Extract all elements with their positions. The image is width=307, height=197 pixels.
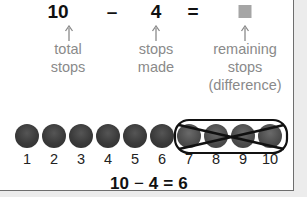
made-number: 4	[149, 174, 158, 193]
stop-label: 3	[77, 151, 85, 167]
caption-stops-made: stops made	[138, 40, 174, 76]
stop-label: 9	[239, 151, 247, 167]
minus-sign: −	[134, 174, 144, 193]
top-equation: 10 – 4 =	[0, 0, 307, 22]
stop-dot-crossed	[258, 124, 282, 148]
stop-label: 10	[262, 151, 278, 167]
stop-label: 6	[158, 151, 166, 167]
arrow-up-icon	[64, 25, 74, 41]
result-number: 6	[178, 174, 187, 193]
stop-label: 4	[104, 151, 112, 167]
stop-label: 2	[50, 151, 58, 167]
stop-label: 5	[131, 151, 139, 167]
equals-sign: =	[187, 1, 198, 23]
stop-dot	[150, 124, 174, 148]
caption-total-stops: total stops	[51, 40, 86, 76]
stop-label: 8	[212, 151, 220, 167]
stop-dot-crossed	[177, 124, 201, 148]
arrow-up-icon	[240, 25, 250, 41]
stop-dot	[69, 124, 93, 148]
stop-dot	[15, 124, 39, 148]
arrow-up-icon	[151, 25, 161, 41]
stop-dot-crossed	[204, 124, 228, 148]
bottom-equation: 10−4=6	[110, 174, 193, 194]
total-number: 10	[110, 174, 129, 193]
stop-label: 1	[23, 151, 31, 167]
equals-sign: =	[163, 174, 173, 193]
caption-remaining-stops: remaining stops (difference)	[208, 40, 281, 94]
made-number: 4	[151, 1, 162, 23]
stop-dot	[96, 124, 120, 148]
unknown-value-box	[239, 5, 252, 18]
stop-label: 7	[185, 151, 193, 167]
total-number: 10	[47, 1, 68, 23]
stop-dot	[42, 124, 66, 148]
minus-sign: –	[107, 1, 118, 23]
stop-dot-crossed	[231, 124, 255, 148]
stop-dot	[123, 124, 147, 148]
